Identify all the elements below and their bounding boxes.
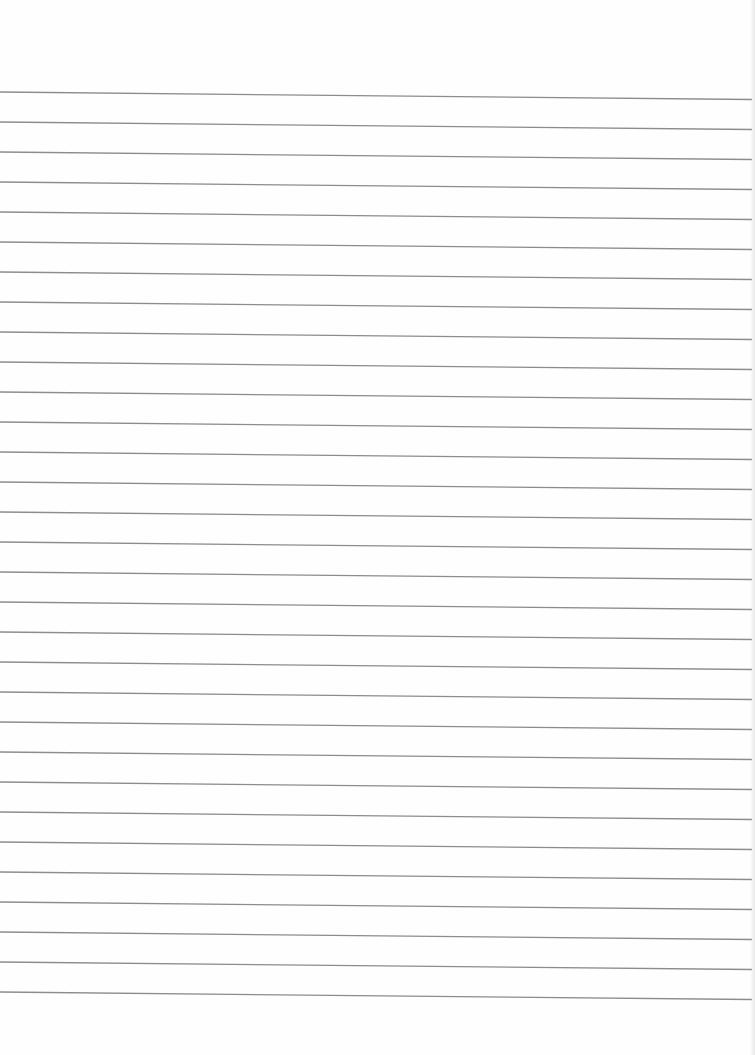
ruled-line [0, 452, 752, 460]
ruled-line [0, 512, 752, 520]
ruled-line [0, 662, 752, 670]
ruled-line [0, 902, 752, 910]
ruled-line [0, 812, 752, 820]
ruled-line [0, 692, 752, 700]
ruled-line [0, 752, 752, 760]
ruled-line [0, 362, 752, 370]
ruled-line [0, 602, 752, 610]
ruled-line [0, 152, 752, 160]
ruled-line [0, 842, 752, 850]
ruled-line [0, 122, 752, 130]
ruled-line [0, 542, 752, 550]
ruled-line [0, 722, 752, 730]
paper-edge-shadow [750, 0, 755, 1055]
ruled-lines [0, 0, 755, 1055]
ruled-line [0, 872, 752, 880]
ruled-line [0, 572, 752, 580]
ruled-line [0, 932, 752, 940]
ruled-line [0, 782, 752, 790]
ruled-line [0, 242, 752, 250]
lined-paper-page [0, 0, 755, 1055]
ruled-line [0, 182, 752, 190]
ruled-line [0, 332, 752, 340]
ruled-line [0, 962, 752, 970]
ruled-line [0, 992, 752, 1000]
ruled-line [0, 632, 752, 640]
ruled-line [0, 212, 752, 220]
ruled-line [0, 92, 752, 100]
ruled-line [0, 272, 752, 280]
ruled-line [0, 482, 752, 490]
ruled-line [0, 392, 752, 400]
ruled-line [0, 422, 752, 430]
ruled-line [0, 302, 752, 310]
